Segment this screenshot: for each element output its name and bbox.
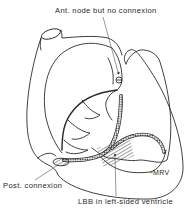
leader-post-connexion [35, 165, 58, 180]
heart-diagram: Ant. node but no connexion MRV Post. con… [0, 0, 194, 209]
label-post-connexion: Post. connexion [3, 182, 62, 190]
label-lbb: LBB in left-sided ventricle [78, 198, 173, 206]
valve-annulus [62, 90, 117, 150]
label-ant-node: Ant. node but no connexion [55, 7, 157, 15]
anterior-node [116, 72, 122, 83]
lbb-hatched-region [97, 140, 134, 168]
aortic-vessel [40, 27, 62, 42]
heart-drawing [0, 0, 194, 209]
posterior-node [53, 158, 69, 166]
inner-chamber-outline [44, 43, 112, 153]
label-mrv: MRV [153, 169, 169, 176]
